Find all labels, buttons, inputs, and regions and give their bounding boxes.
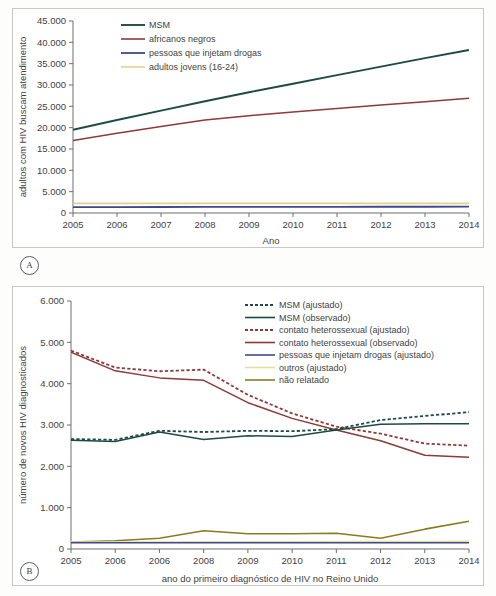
x-tick-label: 2010 <box>282 555 303 566</box>
legend-label: pessoas que injetam drogas (ajustado) <box>279 350 434 360</box>
y-axis-title: número de novos HIV diagnosticados <box>17 346 28 504</box>
y-tick-label: 25.000 <box>37 101 66 112</box>
chart-panel-b: 01.0002.0003.0004.0005.0006.000200520062… <box>12 286 484 586</box>
chart-panel-a: 05.00010.00015.00020.00025.00030.00035.0… <box>12 8 484 248</box>
x-tick-label: 2012 <box>370 219 391 230</box>
x-tick-label: 2010 <box>282 219 303 230</box>
series-line-africanos-negros <box>73 98 469 140</box>
line-chart-b: 01.0002.0003.0004.0005.0006.000200520062… <box>13 287 483 585</box>
x-tick-label: 2006 <box>149 555 170 566</box>
y-tick-label: 2.000 <box>40 461 64 472</box>
y-tick-label: 6.000 <box>40 295 64 306</box>
chart-legend: MSMafricanos negrospessoas que injetam d… <box>121 20 262 72</box>
y-tick-label: 3.000 <box>40 419 64 430</box>
legend-label: contato heterossexual (ajustado) <box>279 325 410 335</box>
y-axis-title: adultos com HIV buscam atendimento <box>17 37 28 198</box>
legend-label: adultos jovens (16-24) <box>149 62 238 72</box>
x-tick-label: 2007 <box>150 219 171 230</box>
y-tick-label: 45.000 <box>37 15 66 26</box>
figure-container: 05.00010.00015.00020.00025.00030.00035.0… <box>0 0 496 596</box>
x-tick-label: 2009 <box>238 219 259 230</box>
panel-label-b: B <box>20 562 39 581</box>
y-tick-label: 0 <box>59 543 64 554</box>
x-tick-label: 2005 <box>60 555 81 566</box>
x-tick-label: 2008 <box>193 555 214 566</box>
y-tick-label: 5.000 <box>42 186 66 197</box>
legend-label: contato heterossexual (observado) <box>279 338 418 348</box>
x-tick-label: 2013 <box>414 219 435 230</box>
legend-label: pessoas que injetam drogas <box>149 48 262 58</box>
legend-label: MSM (ajustado) <box>279 300 343 310</box>
x-tick-label: 2014 <box>458 555 479 566</box>
series-line-outros-ajustado <box>71 541 469 542</box>
x-tick-label: 2005 <box>62 219 83 230</box>
legend-label: africanos negros <box>149 34 216 44</box>
panel-label-a: A <box>20 256 39 275</box>
x-tick-label: 2009 <box>237 555 258 566</box>
y-tick-label: 10.000 <box>37 165 66 176</box>
x-tick-label: 2013 <box>414 555 435 566</box>
legend-label: outros (ajustado) <box>279 363 347 373</box>
x-tick-label: 2006 <box>106 219 127 230</box>
x-axis-title: Ano <box>263 235 280 246</box>
y-tick-label: 1.000 <box>40 502 64 513</box>
y-tick-label: 5.000 <box>40 337 64 348</box>
y-tick-label: 20.000 <box>37 122 66 133</box>
x-tick-label: 2006 <box>105 555 126 566</box>
x-tick-label: 2011 <box>327 219 347 230</box>
legend-label: MSM (observado) <box>279 313 351 323</box>
legend-label: não relatado <box>279 375 329 385</box>
x-tick-label: 2014 <box>458 219 479 230</box>
series-line-msm <box>73 50 469 130</box>
y-tick-label: 35.000 <box>37 58 66 69</box>
x-tick-label: 2011 <box>326 555 346 566</box>
y-tick-label: 0 <box>61 207 66 218</box>
y-tick-label: 40.000 <box>37 37 66 48</box>
legend-label: MSM <box>149 20 170 30</box>
x-axis-title: ano do primeiro diagnóstico de HIV no Re… <box>162 573 379 584</box>
series-line-msm-observado <box>71 424 469 442</box>
x-tick-label: 2008 <box>194 219 215 230</box>
y-tick-label: 30.000 <box>37 79 66 90</box>
line-chart-a: 05.00010.00015.00020.00025.00030.00035.0… <box>13 9 483 247</box>
series-line-n-o-relatado <box>71 521 469 542</box>
y-tick-label: 4.000 <box>40 378 64 389</box>
chart-legend: MSM (ajustado)MSM (observado)contato het… <box>245 300 434 385</box>
x-tick-label: 2012 <box>370 555 391 566</box>
y-tick-label: 15.000 <box>37 143 66 154</box>
